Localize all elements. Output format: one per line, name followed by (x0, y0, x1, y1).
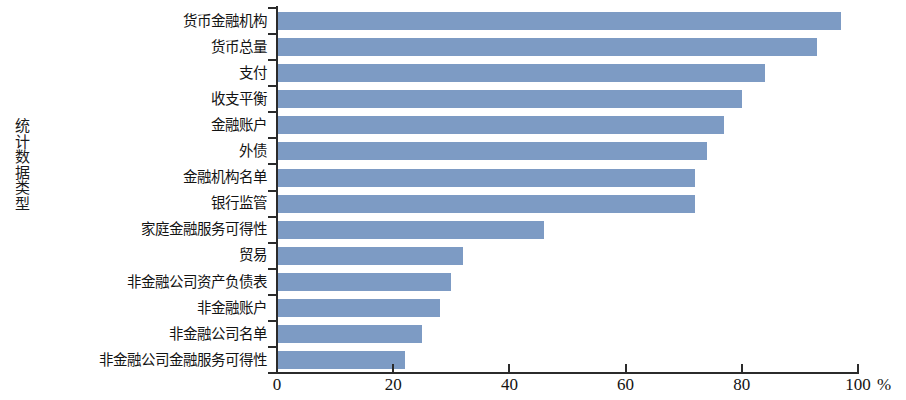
bar (277, 351, 405, 369)
category-label: 银行监管 (24, 191, 272, 217)
y-axis-tick (268, 137, 277, 139)
y-axis-tick (268, 242, 277, 244)
bar-chart: 统计数据类型 货币金融机构 货币总量 支付 收支平衡 金融账户 外债 金融机构名… (0, 0, 906, 400)
bar-row (277, 60, 858, 86)
bar-row (277, 243, 858, 269)
category-label: 非金融账户 (24, 295, 272, 321)
category-label: 金融账户 (24, 112, 272, 138)
y-axis-tick (268, 163, 277, 165)
x-axis-tick (276, 364, 278, 373)
x-axis-tick (857, 364, 859, 373)
bar (277, 195, 695, 213)
bar (277, 90, 742, 108)
x-axis-line (276, 372, 859, 374)
x-axis-tick-label: 0 (273, 376, 282, 393)
y-axis-tick (268, 216, 277, 218)
bar-row (277, 34, 858, 60)
bar (277, 142, 707, 160)
category-label: 非金融公司资产负债表 (24, 269, 272, 295)
bar (277, 273, 451, 291)
x-axis-tick (392, 364, 394, 373)
bar-series (277, 8, 858, 373)
category-label: 货币金融机构 (24, 8, 272, 34)
bar-row (277, 138, 858, 164)
bar-row (277, 269, 858, 295)
x-axis-tick-label: 20 (385, 376, 402, 393)
y-axis-tick (268, 190, 277, 192)
bar (277, 116, 724, 134)
bar-row (277, 321, 858, 347)
y-axis-tick (268, 33, 277, 35)
category-label: 货币总量 (24, 34, 272, 60)
bar-row (277, 191, 858, 217)
bar-row (277, 86, 858, 112)
category-label: 非金融公司金融服务可得性 (24, 347, 272, 373)
y-axis-tick (268, 59, 277, 61)
bar-row (277, 112, 858, 138)
bar (277, 38, 817, 56)
y-axis-tick (268, 268, 277, 270)
bar (277, 299, 440, 317)
bar-row (277, 217, 858, 243)
x-axis-tick-label: 100 (845, 376, 871, 393)
x-axis-tick-label: 40 (501, 376, 518, 393)
bar-row (277, 295, 858, 321)
bar-row (277, 164, 858, 190)
x-axis-tick (508, 364, 510, 373)
x-axis-tick (741, 364, 743, 373)
bar (277, 64, 765, 82)
bar-row (277, 8, 858, 34)
category-label: 收支平衡 (24, 86, 272, 112)
x-axis-tick (625, 364, 627, 373)
plot-area (277, 8, 858, 373)
y-axis-tick (268, 294, 277, 296)
bar (277, 169, 695, 187)
y-axis-tick (268, 346, 277, 348)
category-label: 非金融公司名单 (24, 321, 272, 347)
y-axis-tick (268, 85, 277, 87)
y-axis-tick (268, 7, 277, 9)
x-axis-tick-label: 60 (617, 376, 634, 393)
x-axis-tick-label: 80 (733, 376, 750, 393)
bar-row (277, 347, 858, 373)
bar (277, 247, 463, 265)
category-label: 家庭金融服务可得性 (24, 217, 272, 243)
category-label: 贸易 (24, 243, 272, 269)
category-label: 支付 (24, 60, 272, 86)
y-axis-tick (268, 320, 277, 322)
category-label: 外债 (24, 138, 272, 164)
y-axis-tick (268, 111, 277, 113)
bar (277, 221, 544, 239)
category-label: 金融机构名单 (24, 164, 272, 190)
bar (277, 12, 841, 30)
category-label-column: 货币金融机构 货币总量 支付 收支平衡 金融账户 外债 金融机构名单 银行监管 … (24, 8, 272, 373)
bar (277, 325, 422, 343)
x-axis-unit-label: % (877, 376, 891, 393)
